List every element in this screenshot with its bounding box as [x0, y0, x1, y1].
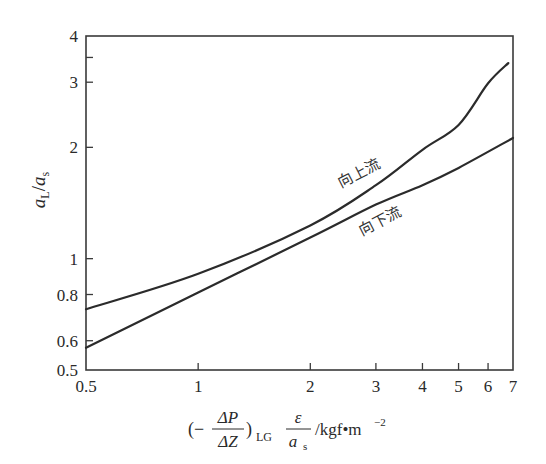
x-axis-label: (− ΔP ΔZ ) LG ε a s /kgf•m −2: [188, 408, 386, 452]
svg-text:s: s: [303, 440, 307, 452]
svg-text:aL/as: aL/as: [28, 172, 52, 209]
x-tick-label: 6: [484, 377, 493, 396]
curve-upflow: [86, 63, 508, 309]
x-tick-label: 4: [418, 377, 427, 396]
curve-label-downflow: 向下流: [356, 203, 404, 239]
y-tick-labels: 0.50.60.81234: [57, 27, 79, 380]
x-tick-label: 1: [194, 377, 203, 396]
curve-downflow: [86, 138, 513, 348]
plot-frame: [86, 36, 513, 370]
svg-text:a: a: [289, 432, 298, 451]
x-tick-label: 2: [306, 377, 315, 396]
svg-text:): ): [246, 419, 252, 440]
y-tick-label: 1: [70, 250, 79, 269]
svg-text:(−: (−: [188, 419, 204, 440]
y-tick-label: 0.6: [57, 332, 78, 351]
svg-text:ΔZ: ΔZ: [217, 432, 238, 451]
chart: 0.51234567 0.50.60.81234 向上流 向下流 aL/as (…: [0, 0, 546, 464]
svg-text:−2: −2: [374, 416, 386, 428]
y-tick-label: 0.8: [57, 286, 78, 305]
y-tick-label: 2: [70, 138, 79, 157]
y-tick-label: 3: [70, 73, 79, 92]
svg-text:ε: ε: [295, 408, 302, 427]
y-tick-label: 0.5: [57, 361, 78, 380]
x-tick-label: 5: [454, 377, 463, 396]
x-tick-labels: 0.51234567: [75, 377, 517, 396]
svg-text:LG: LG: [256, 430, 272, 444]
x-tick-label: 7: [509, 377, 518, 396]
x-tick-label: 3: [372, 377, 381, 396]
axis-ticks: [86, 57, 488, 370]
x-tick-label: 0.5: [75, 377, 96, 396]
curves: [86, 63, 513, 348]
svg-text:ΔP: ΔP: [217, 408, 238, 427]
y-tick-label: 4: [70, 27, 79, 46]
svg-text:/kgf•m: /kgf•m: [315, 420, 362, 439]
y-axis-label: aL/as: [28, 172, 52, 209]
